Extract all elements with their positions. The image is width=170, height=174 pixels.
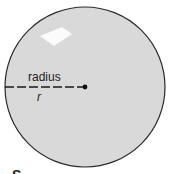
radius-label: radius [28, 70, 61, 84]
center-point [83, 85, 88, 90]
circle-diagram: radius r S [0, 0, 170, 174]
caption-partial: S [12, 167, 21, 174]
